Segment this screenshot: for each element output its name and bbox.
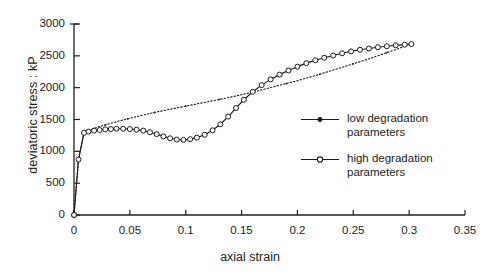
data-point-marker [121,126,126,131]
data-point-marker [103,127,108,132]
data-point-marker [349,49,354,54]
data-point-marker [402,42,407,47]
data-point-marker [268,77,273,82]
data-point-marker [357,47,362,52]
data-point-marker [147,130,152,135]
data-point-marker [285,83,287,85]
y-axis-tick-label: 500 [23,176,65,188]
x-axis-tick-label: 0.05 [107,224,153,236]
data-point-marker [352,63,354,65]
x-axis-title: axial strain [160,250,340,264]
data-point-marker [202,132,207,137]
data-point-marker [188,137,193,142]
data-point-marker [104,124,106,126]
x-axis-tick-label: 0.25 [330,224,376,236]
data-point-marker [127,127,132,132]
data-point-marker [340,51,345,56]
data-point-marker [304,61,309,66]
data-point-marker [76,157,81,162]
x-axis-tick-label: 0.15 [219,224,265,236]
y-axis-tick-label: 1500 [23,113,65,125]
y-axis-tick-label: 3000 [23,17,65,29]
y-axis-tick-label: 0 [23,208,65,220]
chart-figure: deviatoric stress : kP axial strain low … [0,0,491,279]
data-point-marker [233,106,238,111]
y-axis-tick-label: 2500 [23,49,65,61]
data-point-marker [194,135,199,140]
legend-item-low-degradation: low degradation parameters [300,112,433,139]
data-point-marker [259,83,264,88]
chart-legend: low degradation parameters high degradat… [300,112,433,192]
y-axis-tick-label: 2000 [23,81,65,93]
data-point-marker [127,118,129,120]
legend-label-low-degradation: low degradation parameters [347,112,428,139]
data-point-marker [185,105,187,107]
data-point-marker [154,132,159,137]
data-point-marker [114,126,119,131]
data-point-marker [319,73,321,75]
data-point-marker [277,72,282,77]
data-point-marker [181,137,186,142]
data-point-marker [92,128,97,133]
data-point-marker [168,136,173,141]
x-axis-tick-label: 0.1 [163,224,209,236]
data-point-marker [313,58,318,63]
x-axis-tick-label: 0.2 [274,224,320,236]
data-point-marker [161,134,166,139]
legend-item-high-degradation: high degradation parameters [300,152,433,179]
data-point-marker [250,89,255,94]
x-axis-tick-label: 0.3 [386,224,432,236]
data-point-marker [393,43,398,48]
data-point-marker [384,44,389,49]
data-point-marker [375,45,380,50]
data-point-marker [108,127,113,132]
data-point-marker [218,122,223,127]
legend-marker-low-degradation-icon [300,113,340,126]
x-axis-tick-label: 0 [51,224,97,236]
data-point-marker [286,68,291,73]
data-point-marker [226,114,231,119]
data-point-marker [218,99,220,101]
legend-marker-high-degradation-icon [300,153,340,166]
data-point-marker [86,129,91,134]
data-point-marker [154,112,156,114]
data-point-marker [174,137,179,142]
origin-marker [72,213,77,218]
data-point-marker [210,128,215,133]
data-point-marker [386,52,388,54]
data-point-marker [295,64,300,69]
x-axis-tick-label: 0.35 [442,224,488,236]
data-point-marker [141,128,146,133]
data-point-marker [97,128,102,133]
legend-label-high-degradation: high degradation parameters [347,152,433,179]
y-axis-tick-label: 1000 [23,144,65,156]
data-point-marker [322,55,327,60]
data-point-marker [241,97,246,102]
data-point-marker [409,42,414,47]
data-point-marker [366,46,371,51]
data-point-marker [331,53,336,58]
data-point-marker [134,127,139,132]
